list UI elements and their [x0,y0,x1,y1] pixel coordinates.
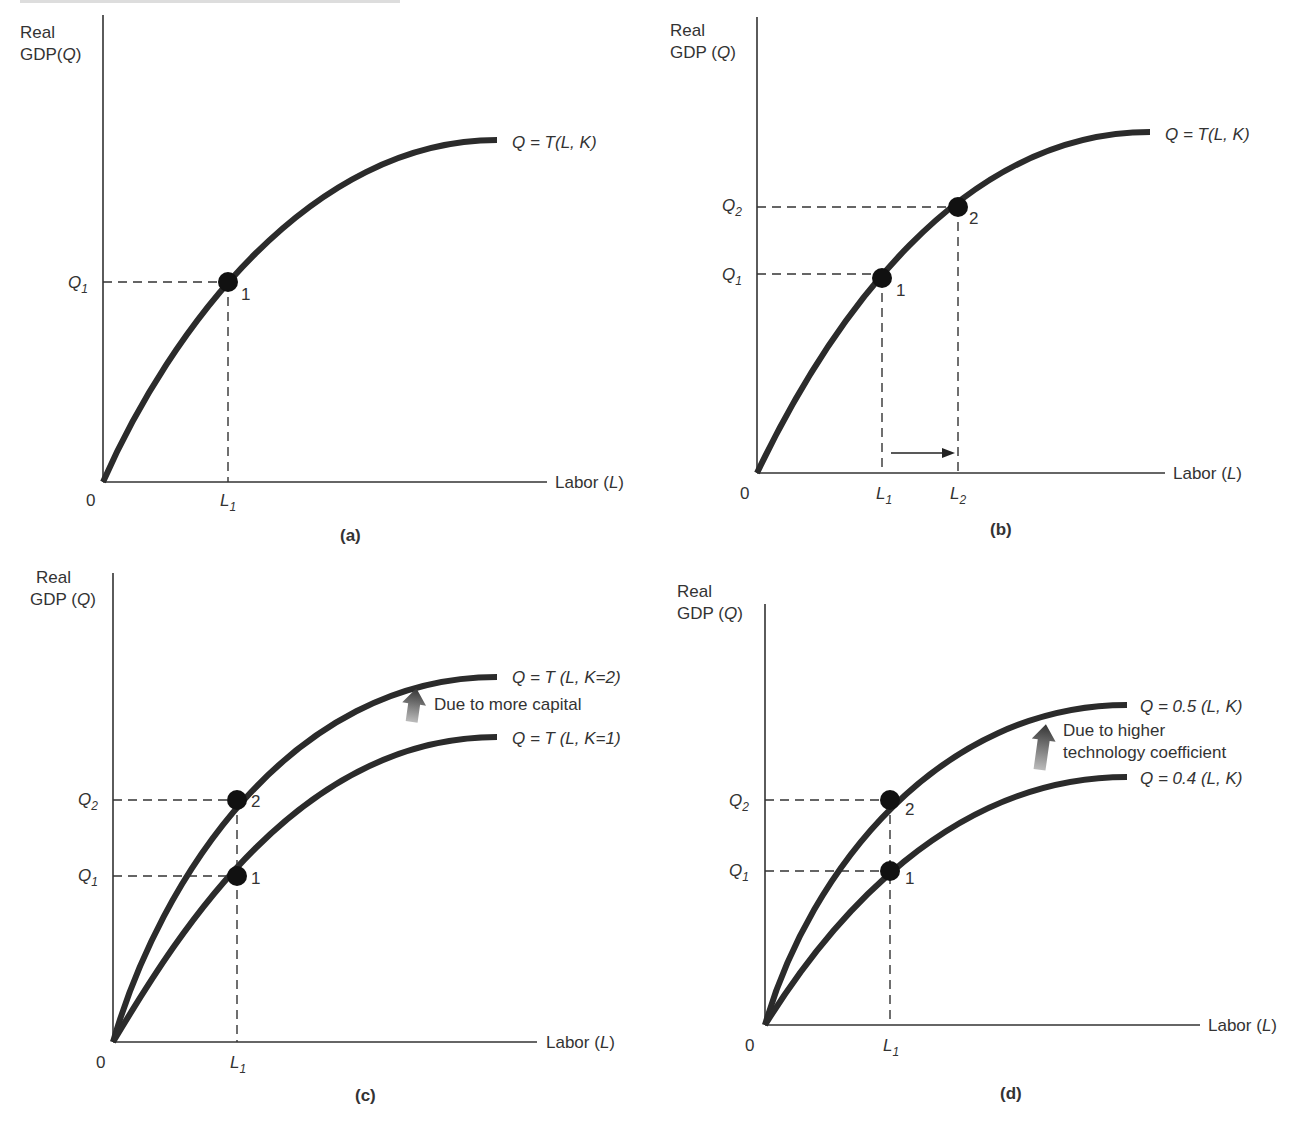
q1-tick-label: Q1 [722,265,742,288]
point-2 [880,790,900,810]
y-axis-label-line2: GDP (Q) [677,604,743,623]
curve-lower-label: Q = T (L, K=1) [512,729,621,748]
origin-label: 0 [740,484,749,503]
curve-label: Q = T(L, K) [512,133,597,152]
q2-tick-label: Q2 [729,791,749,814]
l1-tick-label: L1 [883,1036,899,1059]
y-axis-label-line1: Real [36,568,71,587]
panel-caption: (c) [355,1086,376,1105]
origin-label: 0 [745,1036,754,1055]
origin-label: 0 [96,1053,105,1072]
production-curve-k1 [113,737,497,1042]
q1-tick-label: Q1 [729,861,749,884]
production-curve [103,140,497,482]
shift-up-arrow-icon [1028,723,1058,772]
panel-caption: (a) [340,526,361,545]
panel-caption: (d) [1000,1084,1022,1103]
panel-c: Real GDP (Q) Q = T (L, K=2) Q = T (L, K=… [30,568,621,1105]
point-1-label: 1 [251,869,260,888]
cropped-text-line [20,0,400,3]
point-1 [880,861,900,881]
panel-d: Real GDP (Q) Q = 0.5 (L, K) Q = 0.4 (L, … [677,582,1277,1103]
point-1 [872,268,892,288]
production-curve-k2 [113,677,497,1042]
shift-note: Due to more capital [434,695,581,714]
l1-tick-label: L1 [220,491,236,514]
point-2-label: 2 [969,209,978,228]
panel-caption: (b) [990,520,1012,539]
origin-label: 0 [86,491,95,510]
point-1-label: 1 [241,285,250,304]
x-axis-label: Labor (L) [1208,1016,1277,1035]
q1-tick-label: Q1 [78,866,98,889]
l1-tick-label: L1 [876,484,892,507]
point-1 [227,866,247,886]
point-2-label: 2 [251,792,260,811]
production-curve [757,132,1150,473]
curve-lower-label: Q = 0.4 (L, K) [1140,769,1243,788]
panel-b: Real GDP (Q) Q = T(L, K) 1 2 Q2 Q1 0 L1 … [670,17,1250,539]
point-1-label: 1 [896,281,905,300]
y-axis-label-line1: Real [20,23,55,42]
shift-arrow-head-icon [942,448,955,458]
point-2 [948,197,968,217]
point-2 [227,790,247,810]
point-1 [218,272,238,292]
curve-upper-label: Q = 0.5 (L, K) [1140,697,1243,716]
x-axis-label: Labor (L) [555,473,624,492]
l1-tick-label: L1 [230,1053,246,1076]
shift-note-line1: Due to higher [1063,721,1165,740]
q1-tick-label: Q1 [68,273,88,296]
point-1-label: 1 [905,869,914,888]
y-axis-label-line1: Real [670,21,705,40]
y-axis-label-line2: GDP (Q) [30,590,96,609]
x-axis-label: Labor (L) [546,1033,615,1052]
shift-note-line2: technology coefficient [1063,743,1226,762]
y-axis-label-line2: GDP (Q) [670,43,736,62]
y-axis-label-line1: Real [677,582,712,601]
point-2-label: 2 [905,800,914,819]
q2-tick-label: Q2 [78,790,98,813]
q2-tick-label: Q2 [722,196,742,219]
production-function-figure: Real GDP(Q) Q = T(L, K) 1 Q1 0 L1 Labor … [0,0,1295,1129]
curve-upper-label: Q = T (L, K=2) [512,668,621,687]
panel-a: Real GDP(Q) Q = T(L, K) 1 Q1 0 L1 Labor … [20,15,624,545]
y-axis-label-line2: GDP(Q) [20,45,81,64]
x-axis-label: Labor (L) [1173,464,1242,483]
l2-tick-label: L2 [950,484,966,507]
curve-label: Q = T(L, K) [1165,125,1250,144]
